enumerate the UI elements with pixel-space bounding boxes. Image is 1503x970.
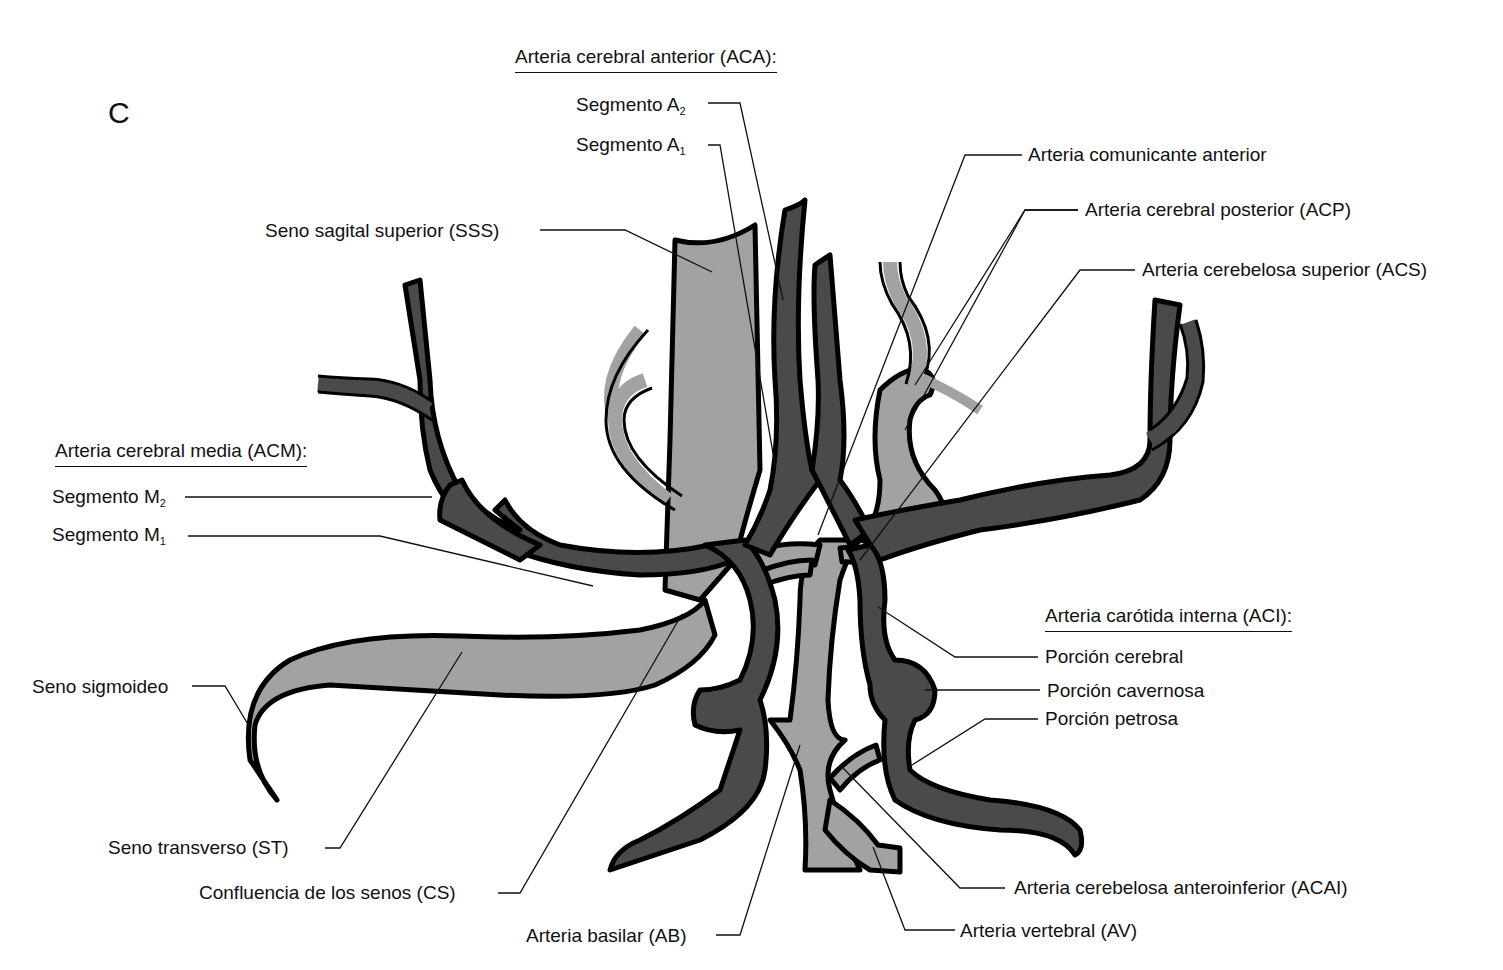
cerebral-vasculature-diagram — [0, 0, 1503, 970]
left-venous-branch — [611, 330, 668, 500]
left-mca-m2 — [440, 480, 540, 560]
label-vertebral: Arteria vertebral (AV) — [960, 920, 1137, 942]
acm-header: Arteria cerebral media (ACM): — [55, 440, 307, 467]
label-segment-m1-sub: 1 — [160, 535, 166, 547]
label-segment-m2-sub: 2 — [160, 497, 166, 509]
label-porcion-cerebral: Porción cerebral — [1045, 646, 1183, 668]
aca-right — [812, 255, 870, 545]
label-acoa: Arteria comunicante anterior — [1028, 144, 1267, 166]
transverse-sigmoid-sinus — [248, 600, 715, 800]
label-porcion-petrosa: Porción petrosa — [1045, 708, 1178, 730]
label-segment-a2-text: Segmento A — [576, 94, 680, 115]
label-segment-a1-sub: 1 — [680, 145, 686, 157]
label-sss: Seno sagital superior (SSS) — [265, 220, 499, 242]
label-confluence: Confluencia de los senos (CS) — [199, 882, 456, 904]
label-acp: Arteria cerebral posterior (ACP) — [1085, 199, 1351, 221]
label-segment-m2: Segmento M2 — [52, 486, 166, 508]
label-segment-a1-text: Segmento A — [576, 134, 680, 155]
label-segment-a1: Segmento A1 — [576, 134, 686, 156]
label-segment-m2-text: Segmento M — [52, 486, 160, 507]
aca-header: Arteria cerebral anterior (ACA): — [515, 46, 777, 73]
label-segment-a2-sub: 2 — [680, 105, 686, 117]
label-acs: Arteria cerebelosa superior (ACS) — [1142, 259, 1427, 281]
label-acai: Arteria cerebelosa anteroinferior (ACAI) — [1014, 877, 1348, 899]
aci-header: Arteria carótida interna (ACI): — [1045, 605, 1292, 632]
label-transverse-sinus: Seno transverso (ST) — [108, 837, 289, 859]
label-sigmoid-sinus: Seno sigmoideo — [32, 676, 168, 698]
label-basilar: Arteria basilar (AB) — [526, 925, 687, 947]
pca-right-upper-branch — [890, 262, 920, 380]
label-porcion-cavernosa: Porción cavernosa — [1047, 680, 1204, 702]
label-segment-m1-text: Segmento M — [52, 524, 160, 545]
label-segment-m1: Segmento M1 — [52, 524, 166, 546]
label-segment-a2: Segmento A2 — [576, 94, 686, 116]
